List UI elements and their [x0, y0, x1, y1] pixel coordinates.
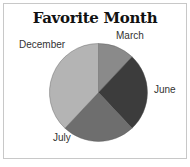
label-june: June — [154, 84, 176, 95]
label-july: July — [53, 132, 71, 143]
label-december: December — [19, 39, 65, 50]
label-march: March — [116, 30, 144, 41]
